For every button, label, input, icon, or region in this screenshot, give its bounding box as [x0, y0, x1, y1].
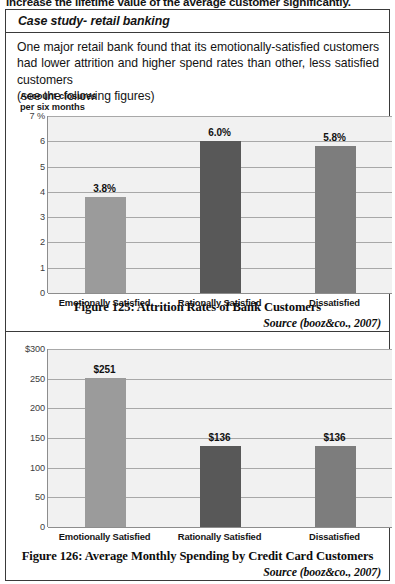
x-axis-tick-label: Dissatisfied: [309, 531, 360, 542]
figure-126-caption: Figure 126: Average Monthly Spending by …: [6, 549, 389, 564]
bar: [85, 197, 126, 293]
figure-126-source: Source (booz&co., 2007): [263, 565, 381, 580]
figure-126-block: $300250200150100500 Emotionally Satisfie…: [6, 343, 389, 580]
y-axis-tick-label: 150: [7, 433, 45, 443]
gridline: [48, 349, 392, 350]
figure-125-caption: Figure 125: Attrition Rates of Bank Cust…: [6, 300, 389, 315]
y-axis-tick-label: 250: [7, 374, 45, 384]
truncated-previous-line: increase the lifetime value of the avera…: [6, 0, 390, 9]
bar-value-label: 3.8%: [93, 183, 115, 194]
bar: [85, 378, 126, 527]
figures-divider: [6, 331, 389, 332]
y-axis-tick-label: 2: [7, 237, 45, 247]
figure-125-block: Account closures per six months 7 %65432…: [6, 88, 389, 331]
y-axis-tick-label: 4: [7, 187, 45, 197]
y-axis-tick-label: 3: [7, 212, 45, 222]
bar-value-label: 6.0%: [208, 127, 230, 138]
y-axis-tick-label: 1: [7, 263, 45, 273]
bar-value-label: 5.8%: [323, 132, 345, 143]
x-axis-tick-label: Rationally Satisfied: [178, 531, 261, 542]
bar-value-label: $136: [209, 432, 231, 443]
y-axis-tick-label: 0: [7, 522, 45, 532]
y-axis-tick-label: 6: [7, 136, 45, 146]
paragraph-line-2: lower attrition and higher spend rates t…: [17, 56, 379, 86]
title-divider: [6, 32, 389, 33]
bar: [315, 446, 356, 527]
chart1-y-axis: 7 %6543210: [6, 88, 45, 331]
bar-value-label: $251: [94, 364, 116, 375]
gridline: [48, 116, 392, 117]
x-axis-tick-label: Emotionally Satisfied: [59, 531, 151, 542]
y-axis-tick-label: 7 %: [7, 111, 45, 121]
y-axis-tick-label: 0: [7, 288, 45, 298]
chart2-y-axis: $300250200150100500: [6, 343, 45, 580]
bar: [200, 141, 241, 293]
case-study-title: Case study- retail banking: [18, 14, 170, 28]
y-axis-tick-label: 200: [7, 403, 45, 413]
case-study-box: Case study- retail banking One major ret…: [5, 9, 390, 581]
bar: [200, 446, 241, 527]
y-axis-tick-label: $300: [7, 344, 45, 354]
bar: [315, 146, 356, 293]
y-axis-tick-label: 100: [7, 463, 45, 473]
y-axis-tick-label: 50: [7, 492, 45, 502]
figure-125-source: Source (booz&co., 2007): [263, 316, 381, 331]
bar-value-label: $136: [324, 432, 346, 443]
y-axis-tick-label: 5: [7, 162, 45, 172]
